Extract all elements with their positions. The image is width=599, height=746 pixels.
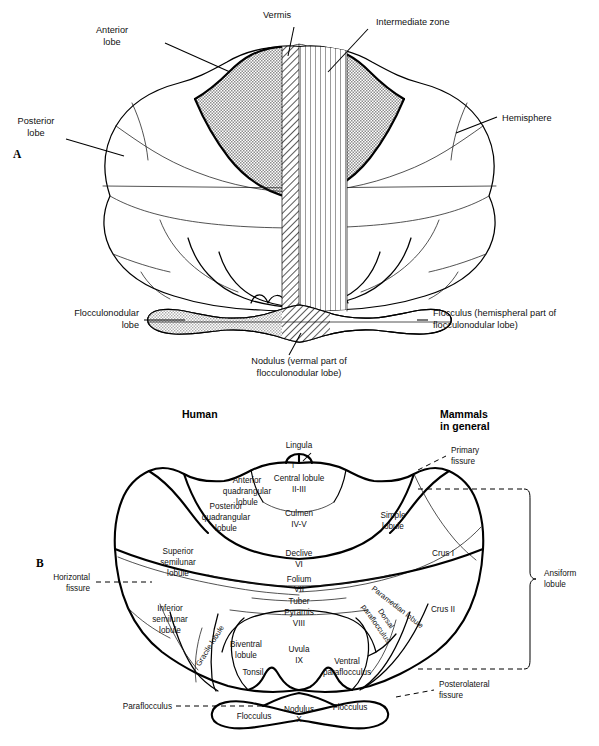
flocculonodular-shading bbox=[148, 300, 282, 348]
flocculus-label-line2: flocculonodular lobe) bbox=[433, 320, 518, 330]
leader-posterior-lobe bbox=[66, 139, 124, 156]
folium-label: Folium bbox=[287, 575, 312, 584]
culmen-label: Culmen bbox=[285, 509, 314, 518]
central-lobule-right-sep bbox=[334, 470, 346, 502]
flocculonodular-label-line1: Flocculonodular bbox=[74, 308, 139, 318]
ventral-paraflocculus-line2: paraflocculus bbox=[323, 668, 371, 677]
panel-b: Human Mammals in general B bbox=[36, 408, 576, 728]
pyramis-label: Pyramis bbox=[284, 608, 314, 617]
heading-human: Human bbox=[182, 408, 218, 420]
primary-fissure-line2: fissure bbox=[451, 457, 476, 466]
flocculonodular-label-line2: lobe bbox=[122, 320, 139, 330]
posterior-quadrangular-line2: quadrangular bbox=[202, 513, 251, 522]
biventral-line1: Biventral bbox=[230, 640, 262, 649]
intermediate-zone-label: Intermediate zone bbox=[376, 17, 450, 27]
nodulus-label-line1: Nodulus (vermal part of bbox=[251, 356, 347, 366]
simple-lobule-line1: Simple bbox=[380, 511, 405, 520]
crus-ii-label: Crus II bbox=[431, 605, 455, 614]
cerebellum-figure: A Anterior lobe Vermis Intermediate zone… bbox=[0, 0, 599, 746]
paraflocculus-label: Paraflocculus bbox=[123, 702, 172, 711]
vermis-label: Vermis bbox=[263, 10, 291, 20]
posterior-quadrangular-line3: lobule bbox=[215, 524, 237, 533]
declive-roman-label: VI bbox=[295, 560, 303, 569]
tuber-label: Tuber bbox=[288, 597, 309, 606]
panel-a: A Anterior lobe Vermis Intermediate zone… bbox=[13, 10, 557, 378]
anterior-lobe-label-line2: lobe bbox=[103, 37, 120, 47]
gracile-lower bbox=[160, 604, 198, 670]
panel-b-letter: B bbox=[36, 557, 44, 569]
inferior-semilunar-line3: lobule bbox=[159, 626, 181, 635]
lobule-sep-left-1 bbox=[132, 103, 148, 160]
posterolateral-fissure-line1: Posterolateral bbox=[439, 680, 490, 689]
vermis-band bbox=[282, 40, 299, 315]
flocculus-label-left: Flocculus bbox=[237, 712, 272, 721]
superior-semilunar-line1: Superior bbox=[163, 547, 194, 556]
inferior-arc-1 bbox=[160, 220, 238, 292]
primary-fissure-line1: Primary bbox=[451, 446, 480, 455]
biventral-line2: lobule bbox=[235, 651, 257, 660]
tonsil-label: Tonsil bbox=[243, 668, 264, 677]
inferior-arc-2 bbox=[361, 220, 439, 292]
uvula-label: Uvula bbox=[289, 645, 310, 654]
heading-mammals-line2: in general bbox=[440, 420, 490, 432]
ventral-paraflocculus-line1: Ventral bbox=[334, 657, 360, 666]
horizontal-fissure-line2: fissure bbox=[66, 584, 91, 593]
pyramis-roman-label: VIII bbox=[293, 619, 305, 628]
gracile-lobule-label: Gracile lobule bbox=[194, 624, 226, 668]
flocculus-label-line1: Flocculus (hemispheral part of bbox=[433, 308, 557, 318]
posterolateral-fissure-leader bbox=[396, 690, 434, 697]
horizontal-fissure-line1: Horizontal bbox=[53, 573, 90, 582]
ansiform-bracket bbox=[524, 489, 536, 669]
flocculus-label-right: Flocculus bbox=[333, 703, 368, 712]
intermediate-zone-band bbox=[299, 40, 347, 315]
anterior-quadrangular-line2: quadrangular bbox=[223, 487, 272, 496]
posterior-lobe-label-line2: lobe bbox=[27, 128, 44, 138]
culmen-roman-label: IV-V bbox=[291, 520, 307, 529]
lingula-roman-label: I bbox=[292, 461, 294, 470]
anterior-quadrangular-line1: Anterior bbox=[233, 476, 262, 485]
ansiform-bracket-box bbox=[418, 489, 524, 669]
central-lobule-roman-label: II-III bbox=[292, 485, 306, 494]
inner-detail-right bbox=[429, 272, 458, 299]
inferior-semilunar-line2: semilunar bbox=[152, 615, 188, 624]
hemisphere-label: Hemisphere bbox=[502, 113, 552, 123]
simple-lobule-line2: lobule bbox=[382, 522, 404, 531]
lobule-sep-left-2 bbox=[113, 254, 170, 272]
inferior-semilunar-line1: Inferior bbox=[157, 604, 183, 613]
ansiform-lobule-line1: Ansiform bbox=[544, 569, 576, 578]
nodulus-label-b: Nodulus bbox=[284, 705, 314, 714]
lobule-sep-right-2 bbox=[429, 254, 486, 272]
declive-label: Declive bbox=[286, 549, 313, 558]
leader-anterior-lobe bbox=[165, 43, 230, 72]
nodulus-label-line2: flocculonodular lobe) bbox=[257, 368, 342, 378]
tonsil-outline-right bbox=[352, 618, 369, 690]
folium-roman-label: VII bbox=[294, 585, 304, 594]
panel-a-letter: A bbox=[13, 148, 22, 160]
anterior-lobe-label-line1: Anterior bbox=[96, 25, 128, 35]
superior-semilunar-line2: semilunar bbox=[160, 558, 196, 567]
posterior-quadrangular-line1: Posterior bbox=[210, 502, 243, 511]
lingula-label: Lingula bbox=[286, 441, 313, 450]
nodulus-roman-label-b: X bbox=[296, 715, 302, 724]
posterior-lobe-label-line1: Posterior bbox=[18, 116, 55, 126]
ansiform-lobule-line2: lobule bbox=[544, 580, 566, 589]
posterolateral-fissure-line2: fissure bbox=[439, 691, 464, 700]
inner-detail-left bbox=[141, 272, 170, 299]
superior-semilunar-line3: lobule bbox=[167, 569, 189, 578]
simple-lobule-lower-bound bbox=[414, 474, 476, 560]
figure-canvas: A Anterior lobe Vermis Intermediate zone… bbox=[0, 0, 599, 746]
heading-mammals-line1: Mammals bbox=[440, 408, 488, 420]
uvula-roman-label: IX bbox=[295, 656, 303, 665]
central-lobule-label: Central lobule bbox=[274, 474, 325, 483]
crus-i-label: Crus I bbox=[432, 549, 454, 558]
